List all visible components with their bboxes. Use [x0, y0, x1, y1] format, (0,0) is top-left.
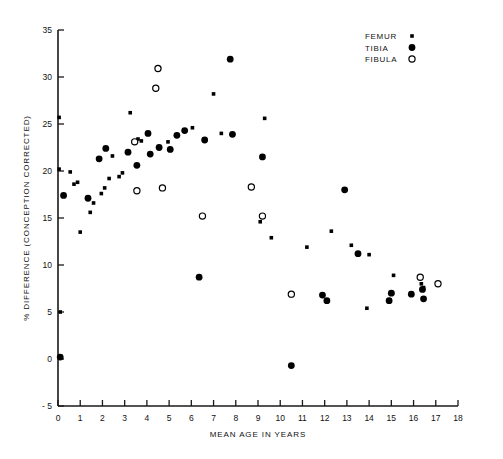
tibia-marker: [419, 286, 426, 293]
x-tick-label: 15: [387, 413, 397, 423]
tibia-marker: [85, 195, 92, 202]
tibia-marker: [181, 127, 188, 134]
x-tick-label: 18: [453, 413, 463, 423]
y-tick-label: 30: [43, 72, 53, 82]
femur-marker: [92, 201, 96, 205]
tibia-marker: [145, 130, 152, 137]
series-femur-points: [57, 92, 425, 314]
femur-marker: [140, 139, 144, 143]
femur-marker: [191, 126, 195, 130]
x-tick-label: 6: [189, 413, 194, 423]
tibia-marker: [341, 186, 348, 193]
scatter-plot-figure: - 505101520253035 0123456789101112131415…: [0, 0, 503, 459]
femur-marker: [220, 132, 224, 136]
x-tick-label: 2: [100, 413, 105, 423]
fibula-marker: [248, 184, 254, 190]
femur-marker: [78, 230, 82, 234]
tibia-marker: [319, 292, 326, 299]
femur-marker: [128, 111, 132, 115]
femur-marker: [212, 92, 216, 96]
tibia-marker: [323, 297, 330, 304]
tibia-marker: [229, 131, 236, 138]
x-tick-label: 9: [256, 413, 261, 423]
legend-marker-tibia-icon: [409, 44, 416, 51]
tibia-marker: [173, 132, 180, 139]
femur-marker: [88, 211, 92, 215]
fibula-marker: [155, 65, 161, 71]
tibia-marker: [102, 145, 109, 152]
tibia-marker: [196, 274, 203, 281]
y-tick-label: 15: [43, 213, 53, 223]
femur-marker: [111, 154, 115, 158]
x-tick-label: 0: [56, 413, 61, 423]
tibia-marker: [156, 144, 163, 151]
femur-marker: [58, 310, 62, 314]
x-tick-label: 17: [431, 413, 441, 423]
tibia-marker: [167, 146, 174, 153]
tibia-marker: [408, 291, 415, 298]
x-tick-label: 10: [275, 413, 285, 423]
y-tick-label: 35: [43, 25, 53, 35]
femur-marker: [68, 170, 72, 174]
femur-marker: [166, 140, 170, 144]
x-axis-ticks: 0123456789101112131415161718: [56, 400, 463, 423]
x-tick-label: 13: [342, 413, 352, 423]
fibula-marker: [259, 213, 265, 219]
series-tibia-points: [57, 56, 427, 369]
fibula-marker: [134, 188, 140, 194]
tibia-marker: [227, 56, 234, 63]
tibia-marker: [60, 192, 67, 199]
tibia-marker: [355, 250, 362, 257]
femur-marker: [117, 175, 121, 179]
x-tick-label: 14: [364, 413, 374, 423]
x-tick-label: 7: [211, 413, 216, 423]
tibia-marker: [420, 295, 427, 302]
fibula-marker: [159, 185, 165, 191]
x-tick-label: 5: [167, 413, 172, 423]
tibia-marker: [259, 154, 266, 161]
femur-marker: [420, 282, 424, 286]
femur-marker: [330, 229, 334, 233]
y-tick-label: 0: [47, 354, 52, 364]
tibia-marker: [386, 297, 393, 304]
tibia-marker: [388, 290, 395, 297]
x-axis-title: MEAN AGE IN YEARS: [210, 430, 307, 439]
x-tick-label: 3: [122, 413, 127, 423]
y-tick-label: - 5: [42, 401, 52, 411]
tibia-marker: [57, 354, 64, 361]
tibia-marker: [96, 155, 103, 162]
x-tick-label: 1: [78, 413, 83, 423]
y-axis-title: % DIFFERENCE (CONCEPTION CORRECTED): [22, 115, 31, 321]
x-tick-label: 8: [233, 413, 238, 423]
series-fibula-points: [132, 65, 442, 297]
y-axis-ticks: - 505101520253035: [42, 25, 64, 411]
tibia-marker: [133, 162, 140, 169]
y-tick-label: 5: [47, 307, 52, 317]
femur-marker: [57, 116, 61, 120]
legend-marker-fibula-icon: [409, 56, 415, 62]
x-tick-label: 11: [298, 413, 307, 423]
legend-label-femur: FEMUR: [365, 32, 397, 41]
femur-marker: [72, 182, 76, 186]
legend: FEMURTIBIAFIBULA: [365, 32, 415, 64]
y-tick-label: 10: [43, 260, 53, 270]
femur-marker: [367, 253, 371, 257]
femur-marker: [365, 306, 369, 310]
femur-marker: [258, 220, 262, 224]
femur-marker: [121, 171, 125, 175]
tibia-marker: [125, 149, 132, 156]
fibula-marker: [153, 85, 159, 91]
fibula-marker: [132, 139, 138, 145]
femur-marker: [270, 236, 274, 240]
femur-marker: [100, 192, 104, 196]
fibula-marker: [417, 274, 423, 280]
femur-marker: [392, 274, 396, 278]
femur-marker: [263, 117, 267, 121]
femur-marker: [76, 180, 80, 184]
femur-marker: [57, 167, 61, 171]
tibia-marker: [201, 137, 208, 144]
y-tick-label: 25: [43, 119, 53, 129]
tibia-marker: [288, 362, 295, 369]
femur-marker: [350, 243, 354, 247]
legend-label-tibia: TIBIA: [365, 44, 389, 53]
